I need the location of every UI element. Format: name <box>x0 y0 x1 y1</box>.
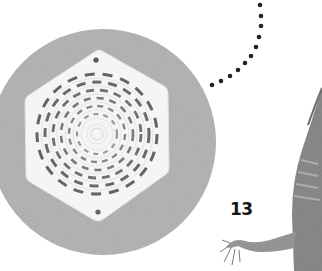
dotted-connector <box>210 3 264 88</box>
screw-hole-top <box>93 57 98 62</box>
screw-hole-bottom <box>95 209 100 214</box>
lizard <box>220 88 322 271</box>
lizard-tail-body <box>292 88 322 271</box>
lizard-front-leg <box>226 232 296 252</box>
illustration-canvas <box>0 0 322 271</box>
page-number: 13 <box>230 199 253 219</box>
page-illustration: 13 <box>0 0 322 271</box>
